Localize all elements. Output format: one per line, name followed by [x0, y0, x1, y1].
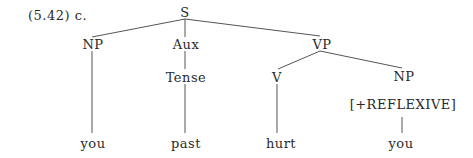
leaf-you-subject: you [80, 137, 105, 150]
node-tense: Tense [166, 71, 207, 84]
node-v: V [272, 71, 282, 84]
leaf-hurt: hurt [266, 137, 296, 150]
example-number: (5.42) c. [28, 8, 87, 23]
leaf-you-object: you [388, 137, 413, 150]
feature-reflexive: [+REFLEXIVE] [350, 98, 457, 111]
node-vp: VP [312, 38, 331, 51]
edge-vp-np [320, 51, 402, 68]
edge-s-np [92, 19, 185, 37]
node-s: S [180, 6, 189, 19]
edge-s-vp [185, 19, 320, 36]
leaf-past: past [171, 137, 201, 150]
node-np-object: NP [393, 70, 414, 83]
node-np-subject: NP [82, 38, 103, 51]
node-aux: Aux [173, 38, 200, 51]
edge-vp-v [278, 51, 320, 69]
